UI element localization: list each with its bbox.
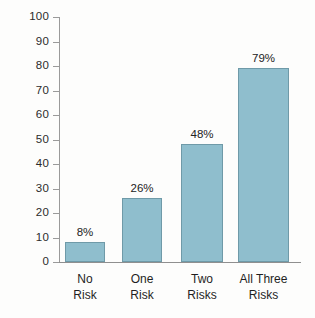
y-axis-tick-mark xyxy=(53,238,59,239)
x-axis-category-label: TwoRisks xyxy=(187,271,216,303)
y-axis-tick-label: 70 xyxy=(3,85,49,97)
bar xyxy=(122,198,162,262)
y-axis-tick-label: 100 xyxy=(3,11,49,23)
y-axis-tick-mark xyxy=(53,91,59,92)
y-axis-tick-label: 20 xyxy=(3,207,49,219)
category-label-line-1: No xyxy=(73,271,96,287)
bar-value-label: 8% xyxy=(77,227,94,239)
y-axis-tick-label: 80 xyxy=(3,60,49,72)
bar-value-label: 48% xyxy=(190,129,213,141)
y-axis-tick-label: 30 xyxy=(3,183,49,195)
y-axis-tick-label: 60 xyxy=(3,109,49,121)
plot-area: 0102030405060708090100 8%26%48%79% NoRis… xyxy=(0,0,315,318)
category-label-line-1: One xyxy=(130,271,153,287)
bar xyxy=(65,242,105,262)
x-axis-category-label: OneRisk xyxy=(130,271,153,303)
y-axis-tick-mark xyxy=(53,140,59,141)
y-axis-tick-label: 90 xyxy=(3,36,49,48)
y-axis-tick-mark xyxy=(53,17,59,18)
y-axis-tick-mark xyxy=(53,115,59,116)
y-axis-tick-label: 40 xyxy=(3,158,49,170)
y-axis-tick-mark xyxy=(53,189,59,190)
x-axis-line xyxy=(59,262,301,263)
category-label-line-2: Risk xyxy=(130,287,153,303)
category-label-line-1: All Three xyxy=(240,271,288,287)
y-axis-tick-mark xyxy=(53,164,59,165)
bar-value-label: 26% xyxy=(130,183,153,195)
category-label-line-2: Risks xyxy=(187,287,216,303)
y-axis-tick-mark xyxy=(53,66,59,67)
y-axis-tick-mark xyxy=(53,213,59,214)
y-axis-line xyxy=(59,17,60,262)
category-label-line-2: Risk xyxy=(73,287,96,303)
bar-chart: 0102030405060708090100 8%26%48%79% NoRis… xyxy=(0,0,315,318)
y-axis-tick-label: 50 xyxy=(3,134,49,146)
y-axis-tick-label: 0 xyxy=(3,256,49,268)
x-axis-category-label: All ThreeRisks xyxy=(240,271,288,303)
y-axis-tick-mark xyxy=(53,262,59,263)
y-axis-tick-mark xyxy=(53,42,59,43)
y-axis-tick-label: 10 xyxy=(3,232,49,244)
bar-value-label: 79% xyxy=(252,53,275,65)
bar xyxy=(181,144,223,262)
bar xyxy=(238,68,289,262)
category-label-line-2: Risks xyxy=(240,287,288,303)
x-axis-category-label: NoRisk xyxy=(73,271,96,303)
category-label-line-1: Two xyxy=(187,271,216,287)
